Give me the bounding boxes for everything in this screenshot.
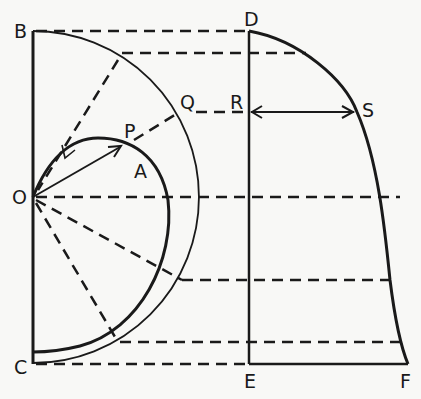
label-c: C: [14, 358, 27, 377]
label-r: R: [230, 93, 243, 112]
inner-curve: [33, 138, 169, 352]
diagram-canvas: B O C P A Q R S D E F: [0, 0, 421, 399]
geometric-construction: [0, 0, 421, 399]
label-a: A: [134, 162, 147, 181]
label-f: F: [400, 372, 411, 391]
dashed-projections: [36, 31, 403, 364]
dashed-radials: [36, 60, 182, 342]
label-q: Q: [180, 93, 195, 112]
label-o: O: [12, 188, 27, 207]
label-p: P: [124, 122, 135, 141]
label-e: E: [244, 372, 256, 391]
label-s: S: [362, 101, 374, 120]
arrowhead-p: [108, 146, 121, 157]
label-d: D: [244, 10, 259, 29]
label-b: B: [14, 22, 27, 41]
